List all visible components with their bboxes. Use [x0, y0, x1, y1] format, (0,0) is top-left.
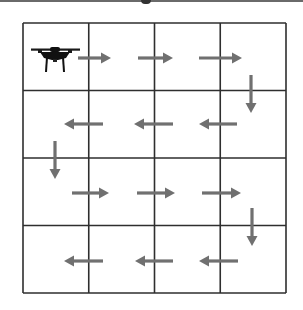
arrow-down-icon	[246, 75, 257, 113]
arrow-right-icon	[78, 53, 111, 64]
arrow-left-icon	[64, 119, 103, 130]
arrow-right-icon	[137, 188, 175, 199]
arrow-left-icon	[134, 119, 173, 130]
arrow-down-icon	[50, 141, 61, 179]
arrow-left-icon	[64, 256, 103, 267]
arrow-right-icon	[202, 188, 241, 199]
arrow-right-icon	[138, 53, 173, 64]
arrow-down-icon	[247, 208, 258, 246]
arrow-left-icon	[199, 256, 238, 267]
arrow-left-icon	[199, 119, 237, 130]
path-arrows	[50, 53, 258, 267]
coverage-path-diagram	[0, 0, 303, 310]
drone-icon	[31, 47, 80, 72]
arrow-right-icon	[72, 188, 109, 199]
